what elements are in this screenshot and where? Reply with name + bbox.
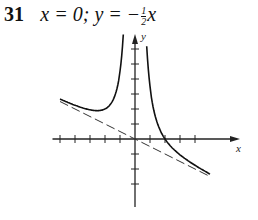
- graph: xy: [0, 0, 258, 220]
- y-axis-arrow: [132, 34, 138, 44]
- curve-left-branch: [60, 35, 123, 111]
- curve-right-branch: [147, 46, 210, 174]
- y-axis-label: y: [140, 30, 146, 42]
- x-axis-label: x: [235, 142, 241, 154]
